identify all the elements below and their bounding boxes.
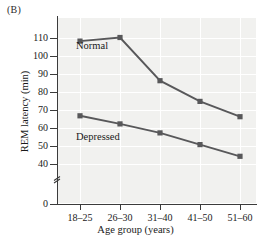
x-tick-label: 51–60 xyxy=(215,212,265,223)
y-tick xyxy=(50,146,57,147)
gridline-horizontal xyxy=(58,92,256,93)
x-axis-title: Age group (years) xyxy=(0,224,271,235)
y-tick xyxy=(50,92,57,93)
x-tick xyxy=(120,204,121,210)
gridline-vertical xyxy=(160,18,161,203)
x-tick xyxy=(240,204,241,210)
y-tick-label: 110 xyxy=(26,32,48,43)
x-axis-line xyxy=(57,204,257,205)
gridline-horizontal xyxy=(58,56,256,57)
y-tick-label: 0 xyxy=(26,198,48,209)
series-label-depressed: Depressed xyxy=(76,131,120,142)
gridline-horizontal xyxy=(58,128,256,129)
gridline-vertical xyxy=(240,18,241,203)
y-axis-title: REM latency (min) xyxy=(19,47,30,177)
x-tick xyxy=(160,204,161,210)
axis-break-icon xyxy=(52,172,62,185)
gridline-horizontal xyxy=(58,164,256,165)
gridline-vertical xyxy=(120,18,121,203)
y-tick xyxy=(50,56,57,57)
gridline-horizontal xyxy=(58,110,256,111)
x-tick xyxy=(80,204,81,210)
figure-panel-b: (B) 110 100 90 80 70 60 50 40 0 xyxy=(0,0,271,243)
y-tick xyxy=(50,204,57,205)
y-tick xyxy=(50,164,57,165)
gridline-horizontal xyxy=(58,38,256,39)
panel-label: (B) xyxy=(7,4,21,15)
y-tick xyxy=(50,74,57,75)
gridline-vertical xyxy=(200,18,201,203)
series-label-normal: Normal xyxy=(76,40,108,51)
y-tick xyxy=(50,128,57,129)
gridline-horizontal xyxy=(58,146,256,147)
gridline-horizontal xyxy=(58,74,256,75)
y-tick xyxy=(50,110,57,111)
y-tick xyxy=(50,38,57,39)
x-tick xyxy=(200,204,201,210)
